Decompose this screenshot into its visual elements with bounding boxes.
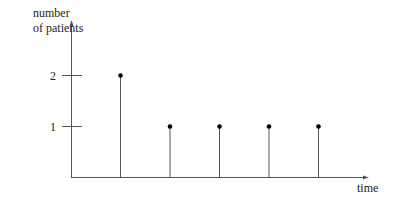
x-axis-arrow-icon	[363, 176, 369, 180]
stem-series	[118, 73, 321, 177]
y-axis-label: number of patients	[33, 6, 83, 36]
y-tick-label-2: 2	[50, 69, 56, 83]
data-point	[118, 73, 123, 78]
y-tick-label-1: 1	[50, 120, 56, 134]
data-point	[168, 124, 173, 129]
data-point	[267, 124, 272, 129]
x-axis-label: time	[357, 181, 378, 196]
y-axis-label-line2: of patients	[33, 21, 83, 36]
y-axis-label-line1: number	[33, 6, 83, 21]
data-point	[217, 124, 222, 129]
data-point	[316, 124, 321, 129]
